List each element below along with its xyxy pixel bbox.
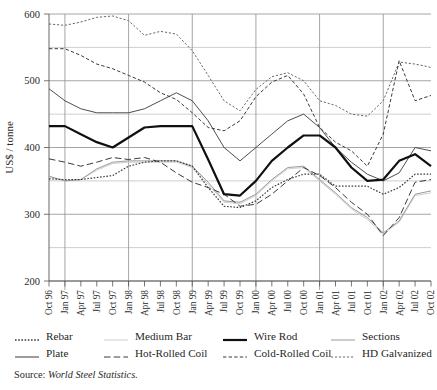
legend-swatch-icon: [222, 348, 248, 358]
y-axis-title-text: US$ / tonne: [3, 121, 15, 174]
x-tick-label: Oct 99: [235, 290, 245, 315]
legend-item-wire-rod[interactable]: Wire Rod: [222, 330, 297, 342]
major-gridlines: [49, 14, 431, 281]
legend-item-cold-rolled-coil[interactable]: Cold-Rolled Coil: [222, 347, 331, 359]
x-tick-label: Oct 98: [172, 290, 182, 315]
x-tick-label: Apr 00: [267, 290, 277, 316]
legend-item-label: Hot-Rolled Coil: [135, 347, 207, 359]
x-tick-label: Jan 98: [124, 290, 134, 314]
x-tick-label: Jul 97: [92, 290, 102, 313]
x-tick-label: Apr 02: [395, 290, 405, 316]
legend-swatch-icon: [14, 331, 40, 341]
x-tick-label: Apr 99: [204, 290, 214, 316]
legend-item-label: Plate: [46, 347, 68, 359]
series-line-plate: [49, 89, 431, 181]
legend-swatch-icon: [14, 348, 40, 358]
x-tick-label: Jan 99: [188, 290, 198, 314]
x-tick-label: Jan 00: [251, 290, 261, 314]
y-tick-label: 200: [24, 276, 40, 287]
legend-item-plate[interactable]: Plate: [14, 347, 68, 359]
legend-swatch-line: [14, 352, 40, 362]
x-tick-label: Jan 01: [315, 290, 325, 314]
legend-item-label: Rebar: [46, 330, 73, 342]
legend-swatch-icon: [103, 348, 129, 358]
source-citation: World Steel Statistics.: [48, 369, 138, 380]
legend-swatch-icon: [330, 331, 356, 341]
x-tick-label: Oct 96: [44, 290, 54, 315]
data-series-layer: [49, 16, 431, 236]
x-tick-label: Jul 02: [410, 290, 420, 313]
legend-item-hd-galvanized[interactable]: HD Galvanized: [330, 347, 432, 359]
y-tick-label: 500: [24, 75, 40, 86]
y-tick-label: 400: [24, 142, 40, 153]
series-line-cold-rolled-coil: [49, 49, 431, 166]
legend-swatch-line: [330, 335, 356, 345]
legend-swatch-icon: [330, 348, 356, 358]
y-tick-label: 600: [24, 9, 40, 20]
x-axis-tick-labels: Oct 96Jan 97Apr 97Jul 97Oct 97Jan 98Apr …: [44, 290, 436, 316]
x-tick-label: Jul 98: [156, 290, 166, 313]
legend-swatch-line: [103, 335, 129, 345]
legend-swatch-line: [222, 335, 248, 345]
legend-swatch-line: [330, 352, 356, 362]
legend-item-medium-bar[interactable]: Medium Bar: [103, 330, 192, 342]
vertical-gridlines: [65, 14, 383, 290]
chart-figure: 600500400300200 Oct 96Jan 97Apr 97Jul 97…: [0, 0, 437, 390]
legend-swatch-line: [103, 352, 129, 362]
x-tick-label: Apr 01: [331, 290, 341, 316]
legend-item-label: Wire Rod: [254, 330, 297, 342]
legend-item-sections[interactable]: Sections: [330, 330, 400, 342]
legend-swatch-icon: [222, 331, 248, 341]
x-tick-label: Oct 01: [363, 290, 373, 315]
legend-item-label: HD Galvanized: [362, 347, 432, 359]
legend-swatch-line: [14, 335, 40, 345]
legend-row-1: RebarMedium BarWire RodSections: [0, 330, 437, 346]
legend-item-label: Cold-Rolled Coil: [254, 347, 331, 359]
x-tick-label: Oct 02: [426, 290, 436, 315]
y-tick-label: 300: [24, 209, 40, 220]
legend-item-label: Sections: [362, 330, 400, 342]
x-tick-label: Apr 97: [76, 290, 86, 316]
y-axis-tick-labels: 600500400300200: [24, 9, 40, 287]
x-tick-label: Apr 98: [140, 290, 150, 316]
chart-legend: RebarMedium BarWire RodSections PlateHot…: [0, 330, 437, 364]
source-note: Source: World Steel Statistics.: [14, 369, 138, 380]
x-tick-label: Oct 97: [108, 290, 118, 315]
series-line-hd-galvanized: [49, 16, 431, 116]
legend-item-hot-rolled-coil[interactable]: Hot-Rolled Coil: [103, 347, 207, 359]
steel-price-line-chart: 600500400300200 Oct 96Jan 97Apr 97Jul 97…: [0, 0, 437, 330]
source-label: Source:: [14, 369, 48, 380]
series-line-rebar: [49, 161, 431, 208]
x-tick-label: Jan 02: [379, 290, 389, 314]
x-tick-label: Jul 99: [219, 290, 229, 313]
x-tick-label: Oct 00: [299, 290, 309, 315]
legend-swatch-icon: [103, 331, 129, 341]
x-tick-label: Jul 00: [283, 290, 293, 313]
x-tick-label: Jul 01: [347, 290, 357, 313]
y-axis-title: US$ / tonne: [3, 121, 15, 174]
legend-swatch-line: [222, 352, 248, 362]
legend-item-label: Medium Bar: [135, 330, 192, 342]
axis-ticks: [44, 14, 431, 287]
legend-item-rebar[interactable]: Rebar: [14, 330, 73, 342]
x-tick-label: Jan 97: [60, 290, 70, 314]
legend-row-2: PlateHot-Rolled CoilCold-Rolled CoilHD G…: [0, 347, 437, 363]
